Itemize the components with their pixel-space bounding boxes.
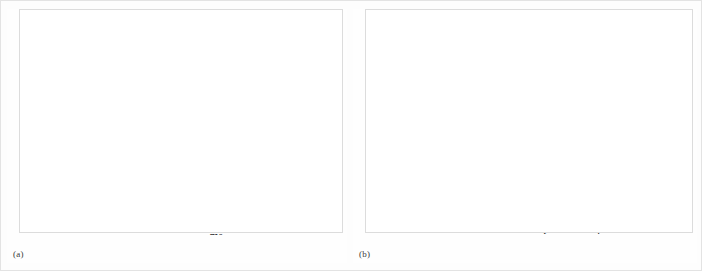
panel-b: 0100percentage ofchannels open−0.500.51.… bbox=[353, 9, 697, 263]
panel-a-frame bbox=[19, 9, 343, 233]
figure-container: µmbundle displacement00.51080percentage … bbox=[0, 0, 702, 271]
panel-b-tag: (b) bbox=[359, 249, 370, 259]
panel-a: µmbundle displacement00.51080percentage … bbox=[7, 9, 347, 263]
panel-b-frame bbox=[365, 9, 693, 233]
panel-a-tag: (a) bbox=[13, 249, 24, 259]
